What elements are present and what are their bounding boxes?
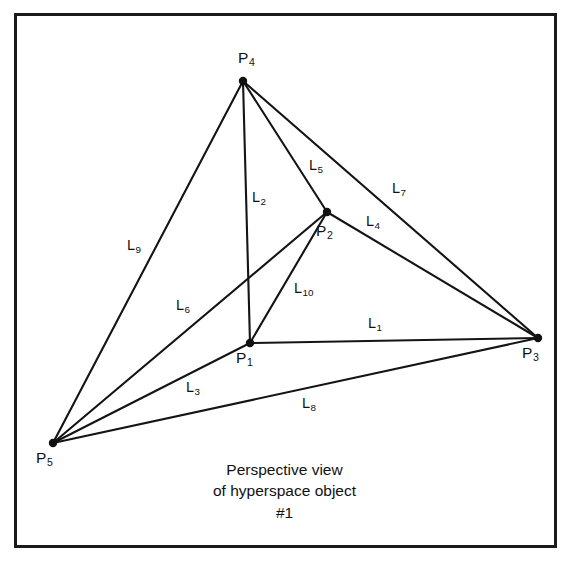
vertex-dot-p2 (323, 208, 330, 215)
vertex-label-p3: P3 (522, 345, 539, 362)
edge-label-l9: L9 (127, 238, 141, 255)
vertex-label-p4: P4 (238, 50, 255, 67)
edge-label-l6: L6 (176, 298, 190, 315)
figure-root: L1L2L3L4L5L6L7L8L9L10 P1P2P3P4P5 Perspec… (0, 0, 569, 564)
edge-l1 (250, 338, 538, 343)
vertex-dot-p1 (246, 339, 253, 346)
edge-l6 (53, 212, 327, 443)
edge-label-l10: L10 (294, 281, 314, 298)
edge-label-l2: L2 (252, 190, 266, 207)
edge-label-l5: L5 (309, 158, 323, 175)
caption-line-2: of hyperspace object (0, 480, 569, 501)
vertex-label-p2: P2 (316, 223, 333, 240)
edge-l9 (53, 81, 243, 443)
caption-line-1: Perspective view (0, 459, 569, 480)
edge-l3 (53, 343, 250, 443)
edge-label-l3: L3 (186, 380, 200, 397)
vertex-dot-p4 (239, 77, 246, 84)
vertex-dot-p3 (534, 334, 541, 341)
edges-group (53, 81, 538, 443)
edge-l4 (327, 212, 538, 338)
vertex-dot-p5 (49, 439, 56, 446)
edge-label-l8: L8 (302, 396, 316, 413)
vertex-label-p1: P1 (236, 350, 253, 367)
edge-label-l1: L1 (368, 316, 382, 333)
edge-label-l7: L7 (392, 181, 406, 198)
edge-l7 (243, 81, 538, 338)
figure-caption: Perspective view of hyperspace object #1 (0, 459, 569, 523)
edge-label-l4: L4 (366, 214, 380, 231)
caption-line-3: #1 (0, 502, 569, 523)
edge-l8 (53, 338, 538, 443)
edge-l2 (243, 81, 250, 343)
